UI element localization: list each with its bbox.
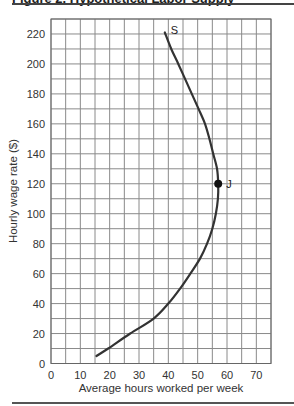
y-tick-label: 200: [27, 58, 45, 70]
y-tick-label: 220: [27, 28, 45, 40]
x-axis-label: Average hours worked per week: [79, 382, 244, 394]
x-tick-label: 0: [48, 369, 54, 381]
point-j-marker: [214, 180, 222, 188]
y-tick-label: 80: [33, 238, 45, 250]
y-tick-label: 20: [33, 328, 45, 340]
y-tick-label: 180: [27, 88, 45, 100]
curve-label-s: S: [171, 24, 178, 36]
x-tick-label: 70: [250, 369, 262, 381]
x-tick-label: 50: [192, 369, 204, 381]
y-tick-label: 60: [33, 268, 45, 280]
y-tick-label: 140: [27, 148, 45, 160]
labor-supply-chart: 020406080100120140160180200220 010203040…: [0, 0, 294, 406]
y-axis-ticks: 020406080100120140160180200220: [27, 28, 45, 370]
y-tick-label: 100: [27, 208, 45, 220]
y-tick-label: 40: [33, 298, 45, 310]
bottom-rule: [12, 402, 294, 404]
x-tick-label: 60: [221, 369, 233, 381]
x-tick-label: 10: [74, 369, 86, 381]
x-tick-label: 30: [133, 369, 145, 381]
x-tick-label: 20: [104, 369, 116, 381]
y-tick-label: 0: [39, 358, 45, 370]
x-axis-ticks: 010203040506070: [48, 369, 263, 381]
supply-curve: [96, 32, 218, 356]
y-axis-label: Hourly wage rate ($): [7, 139, 19, 243]
y-tick-label: 160: [27, 118, 45, 130]
y-tick-label: 120: [27, 178, 45, 190]
x-tick-label: 40: [162, 369, 174, 381]
point-label-j: J: [226, 178, 232, 190]
